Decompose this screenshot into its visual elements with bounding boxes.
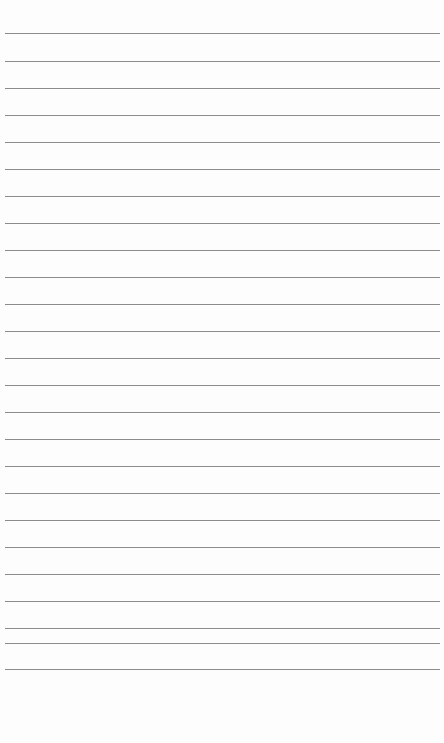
ruled-line: [5, 385, 440, 386]
ruled-line: [5, 466, 440, 467]
ruled-line: [5, 88, 440, 89]
ruled-line: [5, 331, 440, 332]
ruled-line: [5, 196, 440, 197]
ruled-line: [5, 304, 440, 305]
ruled-line: [5, 520, 440, 521]
ruled-line: [5, 169, 440, 170]
ruled-line: [5, 115, 440, 116]
ruled-line: [5, 277, 440, 278]
ruled-line: [5, 547, 440, 548]
ruled-line: [5, 439, 440, 440]
ruled-line: [5, 250, 440, 251]
ruled-line: [5, 628, 440, 629]
lined-paper-sheet: [0, 0, 444, 743]
ruled-line: [5, 493, 440, 494]
ruled-line: [5, 33, 440, 34]
ruled-line: [5, 358, 440, 359]
ruled-line: [5, 669, 440, 670]
ruled-line: [5, 601, 440, 602]
ruled-line: [5, 142, 440, 143]
ruled-line: [5, 61, 440, 62]
ruled-line: [5, 574, 440, 575]
ruled-line: [5, 643, 440, 644]
ruled-line: [5, 223, 440, 224]
ruled-line: [5, 412, 440, 413]
